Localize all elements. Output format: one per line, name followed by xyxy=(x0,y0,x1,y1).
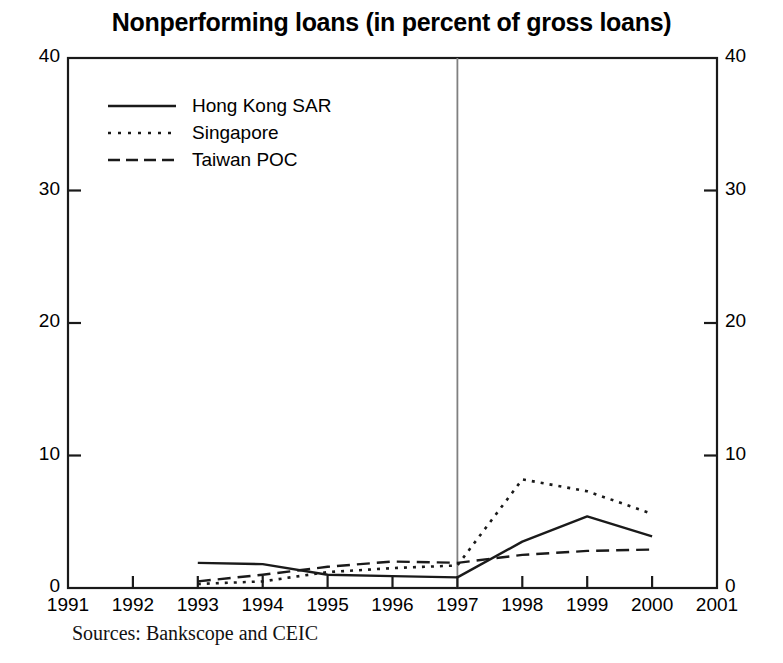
series-line-1 xyxy=(198,479,652,584)
x-axis-label: 1994 xyxy=(228,594,298,616)
chart-legend: Hong Kong SARSingaporeTaiwan POC xyxy=(106,92,331,173)
x-axis-label: 1998 xyxy=(487,594,557,616)
x-axis-label: 1993 xyxy=(163,594,233,616)
legend-item-0[interactable]: Hong Kong SAR xyxy=(106,92,331,119)
source-note: Sources: Bankscope and CEIC xyxy=(72,622,318,645)
y-axis-label-left: 20 xyxy=(14,310,60,332)
x-axis-label: 1999 xyxy=(552,594,622,616)
y-axis-label-right: 30 xyxy=(725,178,771,200)
legend-label: Taiwan POC xyxy=(192,149,298,171)
x-axis-label: 1995 xyxy=(293,594,363,616)
y-axis-label-left: 40 xyxy=(14,45,60,67)
y-axis-label-right: 40 xyxy=(725,45,771,67)
y-axis-label-left: 30 xyxy=(14,178,60,200)
y-axis-label-right: 10 xyxy=(725,443,771,465)
x-axis-label: 1992 xyxy=(98,594,168,616)
x-axis-label: 1991 xyxy=(33,594,103,616)
legend-item-2[interactable]: Taiwan POC xyxy=(106,146,331,173)
legend-line-icon xyxy=(106,126,178,140)
legend-line-icon xyxy=(106,99,178,113)
legend-line-icon xyxy=(106,153,178,167)
x-axis-label: 2001 xyxy=(682,594,752,616)
legend-item-1[interactable]: Singapore xyxy=(106,119,331,146)
y-axis-label-right: 20 xyxy=(725,310,771,332)
y-axis-label-left: 10 xyxy=(14,443,60,465)
x-axis-label: 2000 xyxy=(617,594,687,616)
legend-label: Hong Kong SAR xyxy=(192,95,331,117)
series-line-0 xyxy=(198,516,652,577)
x-axis-label: 1997 xyxy=(422,594,492,616)
legend-label: Singapore xyxy=(192,122,279,144)
x-axis-label: 1996 xyxy=(358,594,428,616)
chart-figure: Nonperforming loans (in percent of gross… xyxy=(0,0,783,663)
